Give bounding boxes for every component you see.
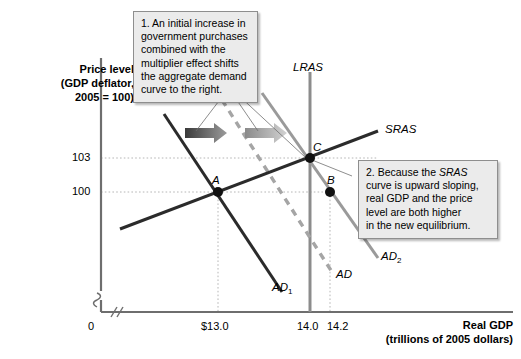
origin-label: 0 (88, 320, 94, 332)
equilibrium-points (213, 153, 335, 197)
y-tick-label-100: 100 (72, 185, 90, 197)
point-label-b: B (327, 174, 335, 186)
y-axis-title-line3: 2005 = 100) (75, 91, 134, 103)
callout-2: 2. Because the SRAS curve is upward slop… (358, 160, 498, 239)
x-axis-title-line2: (trillions of 2005 dollars) (386, 333, 513, 345)
callout-2-line-4: level are both higher (366, 206, 461, 218)
gridlines (101, 158, 378, 312)
callout-2-line-3: real GDP and the price (366, 192, 473, 204)
y-axis-title-line1: Price level (80, 63, 134, 75)
y-tick-label-103: 103 (72, 151, 90, 163)
callout-1-line-3: combined with the (141, 43, 226, 55)
callout-1-line-4: multiplier effect shifts (141, 57, 239, 69)
x-tick-label-13-0: $13.0 (201, 320, 229, 332)
x-tick-label-14-2: 14.2 (327, 320, 348, 332)
callout-1-line-6: curve to the right. (141, 83, 222, 95)
fiscal-policy-ad-as-diagram: Price level (GDP deflator, 2005 = 100) R… (0, 0, 521, 359)
x-axis-title: Real GDP (trillions of 2005 dollars) (333, 318, 513, 346)
ad1-curve (164, 114, 282, 292)
callout-1-line-1: 1. An initial increase in (141, 17, 245, 29)
callout-2-line-5: in the new equilibrium. (366, 219, 470, 231)
point-label-c: C (313, 141, 321, 153)
sras-curve-label: SRAS (385, 123, 416, 135)
callout-1-line-5: the aggregate demand (141, 70, 247, 82)
x-tick-label-14-0: 14.0 (297, 320, 318, 332)
callout-2-line-1: 2. Because the SRAS (366, 166, 468, 178)
ad2-curve-label: AD2 (381, 250, 401, 265)
y-axis-title: Price level (GDP deflator, 2005 = 100) (16, 62, 134, 104)
shift-arrow-2 (245, 123, 287, 143)
callout-2-line-2: curve is upward sloping, (366, 179, 479, 191)
callout-1-line-2: government purchases (141, 30, 248, 42)
shift-arrow-1 (185, 123, 227, 143)
point-label-a: A (212, 174, 220, 186)
callout-1: 1. An initial increase in government pur… (133, 11, 258, 103)
x-axis-title-line1: Real GDP (463, 319, 513, 331)
y-axis-title-line2: (GDP deflator, (61, 77, 134, 89)
sras-curve (120, 131, 378, 229)
ad1-curve-label: AD1 (272, 281, 292, 296)
ad-curve-label: AD (336, 268, 352, 280)
lras-curve-label: LRAS (293, 61, 323, 73)
